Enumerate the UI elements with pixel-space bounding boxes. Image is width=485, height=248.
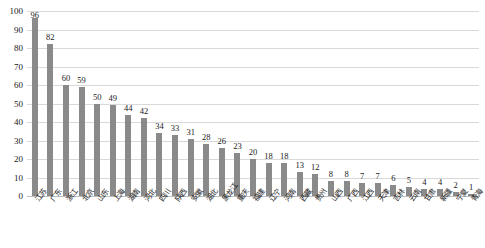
x-label-slot: 江苏 — [27, 198, 43, 248]
bar — [141, 118, 147, 196]
x-label-slot: 天津 — [370, 198, 386, 248]
bar — [203, 144, 209, 196]
x-label-slot: 辽宁 — [261, 198, 277, 248]
bar-value-label: 60 — [62, 74, 71, 83]
bar-value-label: 7 — [360, 172, 364, 181]
bar-value-label: 4 — [422, 178, 426, 187]
bar-value-label: 20 — [249, 148, 258, 157]
y-axis-tick-labels: 0102030405060708090100 — [0, 11, 27, 196]
bar-slot: 82 — [43, 11, 59, 196]
x-label-slot: 福建 — [245, 198, 261, 248]
x-label-slot: 四川 — [152, 198, 168, 248]
bar-value-label: 4 — [438, 178, 442, 187]
bar-slot: 7 — [354, 11, 370, 196]
bar-value-label: 5 — [407, 176, 411, 185]
x-label-slot: 青海 — [463, 198, 479, 248]
x-label-slot: 上海 — [105, 198, 121, 248]
x-label-slot: 新疆 — [432, 198, 448, 248]
bar-series: 9682605950494442343331282623201818131288… — [27, 11, 479, 196]
bar — [172, 135, 178, 196]
plot-area: 9682605950494442343331282623201818131288… — [27, 11, 479, 196]
bar-value-label: 2 — [453, 181, 457, 190]
y-axis-tick-label: 40 — [14, 118, 23, 127]
bar-value-label: 31 — [186, 128, 195, 137]
bar-slot: 4 — [432, 11, 448, 196]
bar-value-label: 34 — [155, 122, 164, 131]
bar-slot: 50 — [89, 11, 105, 196]
bar-slot: 49 — [105, 11, 121, 196]
x-label-slot: 重庆 — [230, 198, 246, 248]
bar — [63, 85, 69, 196]
x-label-slot: 西藏 — [292, 198, 308, 248]
x-label-slot: 湖北 — [198, 198, 214, 248]
bar-slot: 23 — [230, 11, 246, 196]
y-axis-tick-label: 30 — [14, 136, 23, 145]
bar-slot: 12 — [308, 11, 324, 196]
x-label-slot: 山西 — [323, 198, 339, 248]
x-label-slot: 湖南 — [121, 198, 137, 248]
x-label-slot: 宁夏 — [448, 198, 464, 248]
x-label-slot: 贵州 — [308, 198, 324, 248]
y-axis-tick-label: 20 — [14, 155, 23, 164]
bar — [188, 139, 194, 196]
x-label-slot: 河北 — [136, 198, 152, 248]
bar-slot: 20 — [245, 11, 261, 196]
bar-slot: 96 — [27, 11, 43, 196]
bar-slot: 18 — [261, 11, 277, 196]
bar-slot: 7 — [370, 11, 386, 196]
bar-value-label: 7 — [376, 172, 380, 181]
bar-slot: 4 — [417, 11, 433, 196]
bar-slot: 8 — [323, 11, 339, 196]
x-label-slot: 安徽 — [183, 198, 199, 248]
bar-value-label: 49 — [108, 94, 117, 103]
bar-value-label: 18 — [264, 152, 273, 161]
bar-value-label: 96 — [31, 11, 40, 20]
x-label-slot: 黑龙江 — [214, 198, 230, 248]
bar — [94, 104, 100, 197]
bar-value-label: 1 — [469, 183, 473, 192]
bar-value-label: 42 — [140, 107, 149, 116]
x-label-slot: 江西 — [354, 198, 370, 248]
bar-slot: 60 — [58, 11, 74, 196]
y-axis-tick-label: 10 — [14, 173, 23, 182]
bar-value-label: 8 — [344, 170, 348, 179]
bar-slot: 28 — [198, 11, 214, 196]
bar-slot: 26 — [214, 11, 230, 196]
bar-slot: 31 — [183, 11, 199, 196]
bar-value-label: 44 — [124, 104, 133, 113]
bar-value-label: 50 — [93, 93, 102, 102]
bar-value-label: 82 — [46, 33, 55, 42]
x-label-slot: 山东 — [89, 198, 105, 248]
x-label-slot: 云南 — [401, 198, 417, 248]
bar-value-label: 26 — [218, 137, 227, 146]
bar-slot: 2 — [448, 11, 464, 196]
x-label-slot: 广东 — [43, 198, 59, 248]
bar-slot: 34 — [152, 11, 168, 196]
y-axis-tick-label: 60 — [14, 81, 23, 90]
x-label-slot: 陕西 — [167, 198, 183, 248]
bar — [79, 87, 85, 196]
bar-value-label: 13 — [295, 161, 304, 170]
bar-slot: 5 — [401, 11, 417, 196]
bar — [32, 18, 38, 196]
bar-slot: 13 — [292, 11, 308, 196]
bar-slot: 1 — [463, 11, 479, 196]
bar — [47, 44, 53, 196]
bar-value-label: 12 — [311, 163, 320, 172]
bar-slot: 42 — [136, 11, 152, 196]
x-label-slot: 吉林 — [385, 198, 401, 248]
bar-slot: 33 — [167, 11, 183, 196]
x-axis-category-labels: 江苏广东浙江北京山东上海湖南河北四川陕西安徽湖北黑龙江重庆福建辽宁河南西藏贵州山… — [27, 198, 479, 248]
bar-slot: 44 — [121, 11, 137, 196]
bar-value-label: 59 — [77, 76, 86, 85]
x-label-slot: 北京 — [74, 198, 90, 248]
y-axis-tick-label: 70 — [14, 62, 23, 71]
bar-value-label: 18 — [280, 152, 289, 161]
y-axis-tick-label: 100 — [10, 7, 24, 16]
bar — [125, 115, 131, 196]
bar-slot: 6 — [385, 11, 401, 196]
bar-value-label: 33 — [171, 124, 180, 133]
y-axis-tick-label: 50 — [14, 99, 23, 108]
bar — [110, 105, 116, 196]
